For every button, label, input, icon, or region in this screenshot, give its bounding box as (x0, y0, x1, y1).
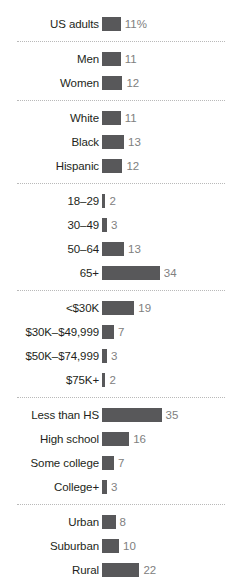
bar-value-label: 11 (121, 53, 137, 66)
bar-row: Less than HS35 (0, 403, 238, 427)
bar (102, 111, 121, 125)
bar-group-gender: Men11Women12 (0, 47, 238, 95)
bar-area: 11 (102, 106, 238, 130)
bar-value-label: 10 (119, 540, 136, 553)
bar-value-label: 3 (107, 350, 117, 363)
bar-group-education: Less than HS35High school16Some college7… (0, 403, 238, 499)
bar (102, 242, 124, 256)
bar-row-label: 50–64 (0, 243, 102, 256)
bar-value-label: 34 (160, 267, 177, 280)
bar (102, 17, 121, 31)
bar-row: US adults11% (0, 12, 238, 36)
bar-row-label: $75K+ (0, 374, 102, 387)
bar-row: White11 (0, 106, 238, 130)
bar-value-label: 3 (107, 481, 117, 494)
group-separator (17, 183, 225, 184)
bar-row: Black13 (0, 130, 238, 154)
bar-value-label: 7 (114, 457, 124, 470)
bar-row: $50K–$74,9993 (0, 344, 238, 368)
bar-row-label: $50K–$74,999 (0, 350, 102, 363)
bar-row-label: Men (0, 53, 102, 66)
bar-row-label: 30–49 (0, 219, 102, 232)
bar (102, 432, 129, 446)
bar-area: 12 (102, 154, 238, 178)
bar-row-label: Suburban (0, 540, 102, 553)
bar-row-label: Hispanic (0, 160, 102, 173)
bar-row: College+3 (0, 475, 238, 499)
bar-row-label: Women (0, 77, 102, 90)
bar-row: 50–6413 (0, 237, 238, 261)
bar-value-label: 13 (124, 243, 141, 256)
bar-row-label: Less than HS (0, 409, 102, 422)
bar-row: Urban8 (0, 510, 238, 534)
bar-row-label: Rural (0, 564, 102, 577)
bar-area: 11 (102, 47, 238, 71)
bar-value-label: 2 (105, 374, 115, 387)
bar-row: Suburban10 (0, 534, 238, 558)
bar-area: 19 (102, 296, 238, 320)
bar (102, 301, 134, 315)
bar-area: 16 (102, 427, 238, 451)
bar-row-label: College+ (0, 481, 102, 494)
bar (102, 159, 122, 173)
bar-row: Some college7 (0, 451, 238, 475)
bar-group-community-type: Urban8Suburban10Rural22 (0, 510, 238, 581)
bar-area: 13 (102, 130, 238, 154)
bar-value-label: 8 (116, 516, 126, 529)
bar-value-label: 12 (122, 160, 139, 173)
bar-area: 7 (102, 320, 238, 344)
bar-value-label: 13 (124, 136, 141, 149)
bar-row-label: High school (0, 433, 102, 446)
bar-value-label: 12 (122, 77, 139, 90)
group-separator (17, 290, 225, 291)
bar-row: Hispanic12 (0, 154, 238, 178)
bar-area: 11% (102, 12, 238, 36)
bar-group-income: <$30K19$30K–$49,9997$50K–$74,9993$75K+2 (0, 296, 238, 392)
bar (102, 76, 122, 90)
bar-value-label: 11% (121, 18, 147, 31)
bar-row: $75K+2 (0, 368, 238, 392)
bar-value-label: 35 (162, 409, 179, 422)
bar-value-label: 2 (105, 195, 115, 208)
bar-area: 2 (102, 189, 238, 213)
bar (102, 408, 162, 422)
bar-area: 12 (102, 71, 238, 95)
bar-row-label: Urban (0, 516, 102, 529)
bar (102, 325, 114, 339)
bar-value-label: 22 (139, 564, 156, 577)
bar-value-label: 16 (129, 433, 146, 446)
bar (102, 135, 124, 149)
bar (102, 515, 116, 529)
bar-row: 30–493 (0, 213, 238, 237)
bar-row-label: Black (0, 136, 102, 149)
bar-row: <$30K19 (0, 296, 238, 320)
bar-row: 18–292 (0, 189, 238, 213)
bar (102, 456, 114, 470)
bar-row-label: 18–29 (0, 195, 102, 208)
bar-row: Women12 (0, 71, 238, 95)
bar-row-label: <$30K (0, 302, 102, 315)
bar-area: 22 (102, 558, 238, 581)
bar-area: 2 (102, 368, 238, 392)
bar-row: $30K–$49,9997 (0, 320, 238, 344)
bar-area: 10 (102, 534, 238, 558)
bar-area: 3 (102, 213, 238, 237)
bar-row: Men11 (0, 47, 238, 71)
bar (102, 52, 121, 66)
group-separator (17, 397, 225, 398)
bar-group-age: 18–29230–49350–641365+34 (0, 189, 238, 285)
bar (102, 539, 119, 553)
bar-area: 3 (102, 344, 238, 368)
bar-area: 34 (102, 261, 238, 285)
bar-row: Rural22 (0, 558, 238, 581)
bar-row-label: $30K–$49,999 (0, 326, 102, 339)
bar-row-label: 65+ (0, 267, 102, 280)
bar-row: High school16 (0, 427, 238, 451)
bar-group-total: US adults11% (0, 12, 238, 36)
bar-area: 8 (102, 510, 238, 534)
bar-value-label: 7 (114, 326, 124, 339)
bar-row-label: Some college (0, 457, 102, 470)
bar-area: 7 (102, 451, 238, 475)
bar-value-label: 3 (107, 219, 117, 232)
